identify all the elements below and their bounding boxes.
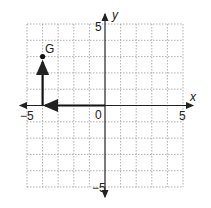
x-min-label: −5	[20, 109, 34, 123]
origin-label: 0	[95, 108, 102, 122]
y-axis-label: y	[111, 8, 119, 22]
x-axis-label: x	[189, 90, 197, 104]
translation-path	[43, 62, 105, 106]
point-g-label: G	[45, 42, 54, 56]
y-min-label: −5	[92, 181, 106, 195]
y-max-label: 5	[95, 20, 102, 34]
coordinate-plane: G y x 5 −5 −5 5 0	[0, 0, 211, 208]
x-max-label: 5	[179, 109, 186, 123]
